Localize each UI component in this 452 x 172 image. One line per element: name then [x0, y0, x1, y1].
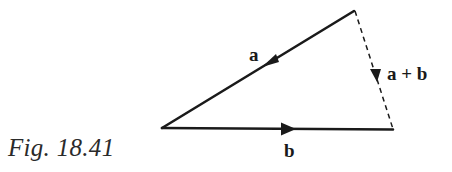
vector-b: b [162, 123, 393, 162]
vector-b-label: b [284, 140, 295, 161]
vector-a-plus-b: a + b [355, 11, 427, 129]
figure-caption: Fig. 18.41 [8, 134, 114, 162]
vector-a: a [162, 11, 354, 128]
vector-b-arrowhead-icon [281, 123, 296, 136]
vector-a-arrowhead-icon [262, 54, 279, 67]
vector-a-plus-b-arrowhead-icon [370, 69, 381, 82]
vector-a-label: a [249, 44, 259, 65]
vector-b-line [162, 128, 393, 130]
vector-a-plus-b-label: a + b [387, 63, 427, 84]
vector-a-line [162, 11, 354, 128]
